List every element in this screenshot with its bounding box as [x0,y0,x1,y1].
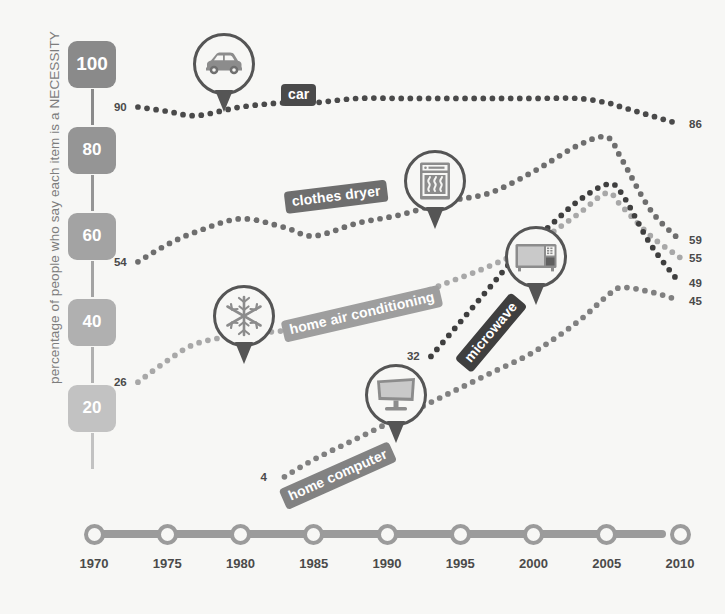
microwave-icon-circle [505,226,567,288]
car-icon [204,51,244,77]
snowflake-icon-circle [213,285,275,347]
chart-root: percentage of people who say each item i… [0,0,725,614]
end-value-home-computer: 45 [689,295,702,307]
home-computer-icon [375,377,417,413]
start-value-microwave: 32 [407,350,420,362]
x-axis-node-1990[interactable] [377,524,398,545]
x-axis-node-1995[interactable] [450,524,471,545]
callout-pin-microwave[interactable] [505,226,567,288]
snowflake-pin-tail [235,342,253,364]
end-value-clothes-dryer: 59 [689,234,702,246]
start-value-car: 90 [114,101,127,113]
x-axis-node-2005[interactable] [596,524,617,545]
home-computer-icon-circle [365,364,427,426]
x-axis-label-1995: 1995 [446,556,475,571]
callout-pin-clothes-dryer[interactable] [404,150,466,212]
x-axis-node-1975[interactable] [157,524,178,545]
series-label-car[interactable]: car [281,84,316,106]
x-axis [80,524,680,544]
x-axis-label-1970: 1970 [80,556,109,571]
x-axis-node-2000[interactable] [523,524,544,545]
end-value-home-air-conditioning: 55 [689,252,702,264]
start-value-clothes-dryer: 54 [114,256,127,268]
clothes-dryer-icon-circle [404,150,466,212]
x-axis-label-1980: 1980 [226,556,255,571]
x-axis-label-2005: 2005 [592,556,621,571]
callout-pin-car[interactable] [193,33,255,95]
home-computer-pin-tail [387,421,405,443]
snowflake-icon [223,295,265,337]
clothes-dryer-icon [418,161,452,201]
x-axis-node-1980[interactable] [230,524,251,545]
x-axis-label-2000: 2000 [519,556,548,571]
callout-pin-home-computer[interactable] [365,364,427,426]
microwave-pin-tail [527,283,545,305]
car-icon-circle [193,33,255,95]
x-axis-label-1990: 1990 [373,556,402,571]
x-axis-label-1975: 1975 [153,556,182,571]
callout-pin-home-air-conditioning[interactable] [213,285,275,347]
x-axis-label-1985: 1985 [299,556,328,571]
x-axis-node-1970[interactable] [84,524,105,545]
start-value-home-air-conditioning: 26 [114,376,127,388]
end-value-microwave: 49 [689,277,702,289]
microwave-icon [514,242,558,272]
x-axis-label-2010: 2010 [666,556,695,571]
x-axis-node-1985[interactable] [303,524,324,545]
car-pin-tail [215,90,233,112]
start-value-home-computer: 4 [260,471,266,483]
clothes-dryer-pin-tail [426,207,444,229]
end-value-car: 86 [689,118,702,130]
x-axis-node-2010[interactable] [670,524,691,545]
